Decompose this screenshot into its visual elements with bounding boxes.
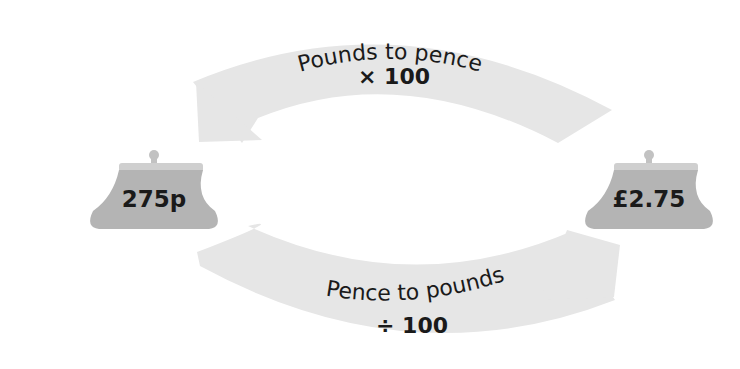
pence-amount: 275p [122,186,186,212]
bottom-arrow-operation: ÷ 100 [376,313,448,338]
top-arrow: Pounds to pence × 100 [193,39,612,143]
conversion-diagram: Pounds to pence × 100 Pence to pounds ÷ … [0,0,740,369]
top-arrow-operation: × 100 [358,64,430,89]
right-purse: £2.75 [585,150,713,229]
bottom-arrow: Pence to pounds ÷ 100 [197,224,620,338]
pounds-amount: £2.75 [613,186,686,212]
left-purse: 275p [90,150,218,229]
